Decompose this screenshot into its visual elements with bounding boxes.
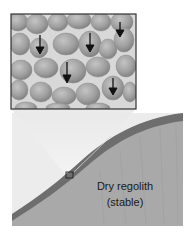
grain-inset — [8, 11, 137, 114]
slope-label-sub: (stable) — [92, 196, 158, 209]
regolith-diagram: Dry regolith (stable) — [0, 0, 191, 238]
slope-label-main: Dry regolith — [92, 180, 158, 193]
